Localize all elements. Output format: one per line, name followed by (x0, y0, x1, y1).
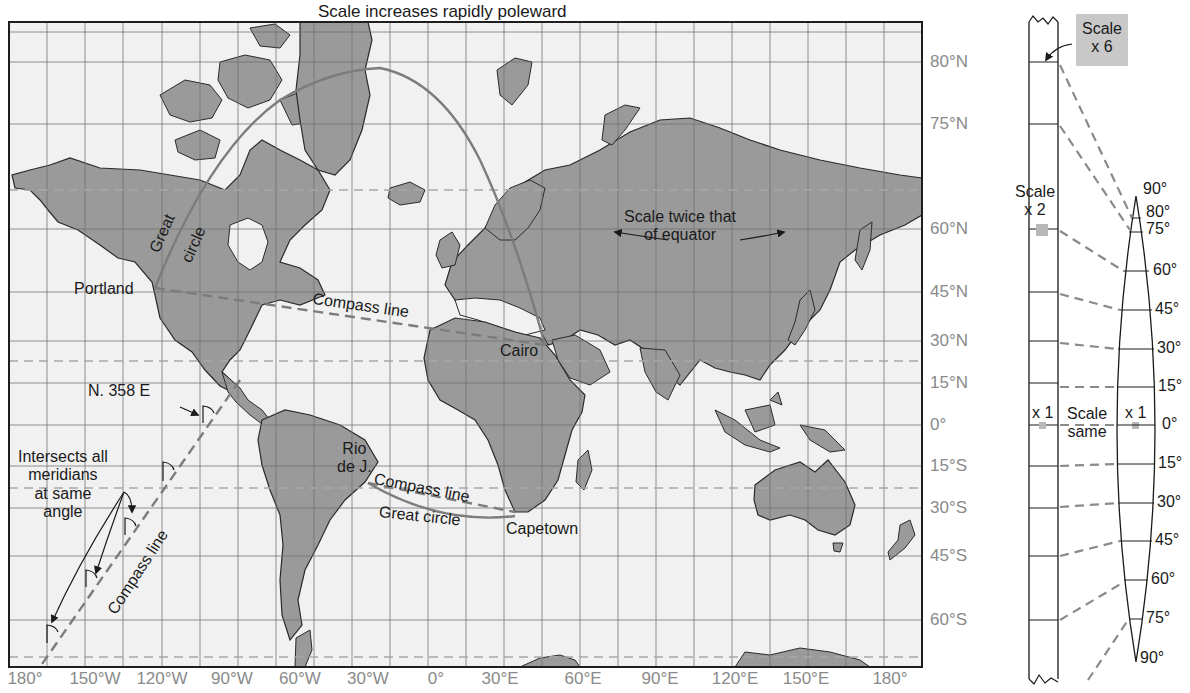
scale-x6-line1: Scale (1076, 20, 1128, 38)
scale-same-line2: same (1067, 423, 1107, 441)
strip-gore-connectors (1060, 65, 1132, 680)
label-scale-twice: Scale twice that of equator (624, 208, 736, 243)
lon-label-90e: 90°E (641, 669, 678, 689)
gore-label-60s: 60° (1151, 570, 1175, 588)
lon-label-180w: 180° (7, 669, 42, 689)
lon-label-90w: 90°W (211, 669, 253, 689)
lat-label-0: 0° (930, 415, 946, 435)
gore-label-80n: 80° (1146, 203, 1170, 221)
label-intersects-line1: Intersects all (18, 448, 108, 466)
gore-label-45s: 45° (1155, 531, 1179, 549)
gore-label-90s: 90° (1140, 649, 1164, 667)
scale-same-label: Scale same (1067, 405, 1107, 440)
scale-x2-line1: Scale (1015, 183, 1055, 201)
mercator-figure: Scale increases rapidly poleward 80°N 75… (0, 0, 1190, 693)
label-scale-twice-line1: Scale twice that (624, 208, 736, 226)
label-capetown: Capetown (506, 520, 578, 538)
figure-graphics (0, 0, 1190, 693)
label-scale-twice-line2: of equator (624, 226, 736, 244)
lat-label-30s: 30°S (930, 498, 967, 518)
gore-label-30s: 30° (1157, 493, 1181, 511)
label-intersects: Intersects all meridians at same angle (18, 448, 108, 522)
gore-label-0: 0° (1162, 415, 1177, 433)
label-cairo: Cairo (500, 342, 538, 360)
lat-label-45n: 45°N (930, 282, 968, 302)
scale-x6-line2: x 6 (1076, 38, 1128, 56)
scale-x2-line2: x 2 (1015, 201, 1055, 219)
lon-label-180e: 180° (872, 669, 907, 689)
gore-label-30n: 30° (1157, 339, 1181, 357)
gore-label-45n: 45° (1155, 300, 1179, 318)
label-intersects-line4: angle (18, 503, 108, 521)
lon-label-150e: 150°E (783, 669, 830, 689)
scale-x1-right: x 1 (1125, 404, 1146, 422)
label-rio-line1: Rio (337, 440, 372, 458)
lat-label-75n: 75°N (930, 114, 968, 134)
lon-label-30w: 30°W (347, 669, 389, 689)
gore-label-90n: 90° (1143, 180, 1167, 198)
lat-label-30n: 30°N (930, 331, 968, 351)
lat-label-60n: 60°N (930, 219, 968, 239)
scale-strip (1029, 16, 1139, 684)
label-intersects-line2: meridians (18, 466, 108, 484)
scale-x2-label: Scale x 2 (1015, 183, 1055, 220)
label-portland: Portland (74, 280, 134, 298)
figure-title: Scale increases rapidly poleward (318, 2, 567, 22)
label-rio: Rio de J. (337, 440, 372, 475)
lon-label-30e: 30°E (481, 669, 518, 689)
scale-same-line1: Scale (1067, 405, 1107, 423)
lat-label-45s: 45°S (930, 546, 967, 566)
gore-label-15s: 15° (1158, 454, 1182, 472)
lat-label-80n: 80°N (930, 52, 968, 72)
label-rio-line2: de J. (337, 458, 372, 476)
lat-label-60s: 60°S (930, 610, 967, 630)
lon-label-0: 0° (428, 669, 444, 689)
gore-label-60n: 60° (1153, 261, 1177, 279)
lon-label-150w: 150°W (69, 669, 120, 689)
label-bearing: N. 358 E (88, 382, 150, 400)
lat-label-15n: 15°N (930, 373, 968, 393)
lon-label-60e: 60°E (564, 669, 601, 689)
label-intersects-line3: at same (18, 485, 108, 503)
gore-label-75s: 75° (1146, 609, 1170, 627)
lon-label-60w: 60°W (279, 669, 321, 689)
scale-x1-left: x 1 (1032, 404, 1053, 422)
gore-label-75n: 75° (1146, 220, 1170, 238)
lon-label-120e: 120°E (712, 669, 759, 689)
lon-label-120w: 120°W (136, 669, 187, 689)
lat-label-15s: 15°S (930, 456, 967, 476)
gore-label-15n: 15° (1158, 377, 1182, 395)
scale-x6-box: Scale x 6 (1076, 14, 1128, 66)
